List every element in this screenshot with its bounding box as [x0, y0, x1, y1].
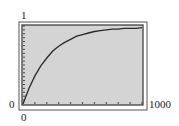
x-max-label: 1000 [149, 99, 171, 110]
x-min-label: 0 [21, 112, 27, 123]
y-min-label: 0 [9, 99, 15, 110]
y-max-label: 1 [21, 10, 27, 21]
plot-area [22, 25, 143, 105]
